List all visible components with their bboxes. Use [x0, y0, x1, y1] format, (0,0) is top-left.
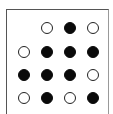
hollow-circle-icon: [87, 69, 99, 81]
filled-circle-icon: [18, 69, 30, 81]
filled-circle-icon: [64, 69, 76, 81]
hollow-circle-icon: [18, 46, 30, 58]
hollow-circle-icon: [64, 92, 76, 104]
hollow-circle-icon: [18, 92, 30, 104]
filled-circle-icon: [41, 92, 53, 104]
filled-circle-icon: [41, 46, 53, 58]
filled-circle-icon: [64, 22, 76, 34]
filled-circle-icon: [64, 46, 76, 58]
filled-circle-icon: [87, 92, 99, 104]
hollow-circle-icon: [41, 22, 53, 34]
hollow-circle-icon: [87, 22, 99, 34]
filled-circle-icon: [87, 46, 99, 58]
filled-circle-icon: [41, 69, 53, 81]
